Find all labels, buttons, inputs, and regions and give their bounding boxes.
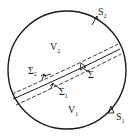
- label-sigma1: Σ1: [59, 86, 68, 99]
- label-sigma: Σ: [88, 69, 94, 80]
- label-v2: V2: [50, 41, 60, 54]
- domain-diagram: V2 V1 S2 S1 Σ Σ2 Σ1: [0, 0, 132, 138]
- label-v1: V1: [68, 104, 78, 117]
- label-s2: S2: [98, 6, 107, 19]
- label-s1: S1: [116, 111, 125, 124]
- label-sigma2: Σ2: [28, 65, 37, 77]
- interface-lower-dashed-line: [16, 54, 121, 105]
